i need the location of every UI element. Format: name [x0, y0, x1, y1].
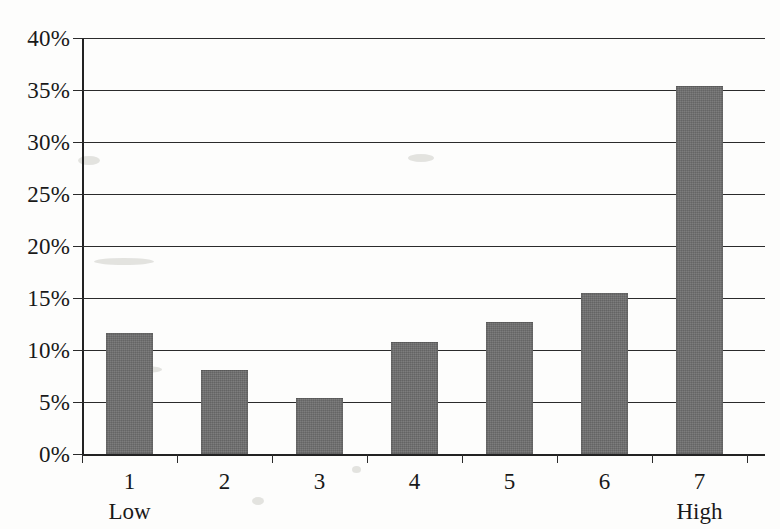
bar-2 [201, 370, 248, 454]
x-tick-mark [747, 454, 748, 463]
bar-1 [106, 333, 153, 454]
bar-4 [391, 342, 438, 454]
gridline-25 [82, 194, 765, 195]
bar-5 [486, 322, 533, 454]
gridline-15 [82, 298, 765, 299]
y-tick-mark [73, 246, 82, 247]
x-tick-mark [82, 454, 83, 463]
y-tick-mark [73, 90, 82, 91]
x-tick-label-3: 3 [272, 470, 367, 493]
y-tick-mark [73, 402, 82, 403]
x-tick-label-6: 6 [557, 470, 652, 493]
bar-3 [296, 398, 343, 454]
x-tick-mark [367, 454, 368, 463]
bar-chart: 40% 35% 30% 25% 20% 15% 10% 5% 0% [0, 0, 780, 529]
y-tick-label: 40% [0, 27, 70, 50]
y-tick-mark [73, 454, 82, 455]
x-tick-label-2: 2 [177, 470, 272, 493]
x-tick-label-7: 7 [652, 470, 747, 493]
y-tick-mark [73, 38, 82, 39]
x-tick-mark [272, 454, 273, 463]
x-axis-endpoint-label-high: High [652, 500, 747, 523]
x-tick-mark [462, 454, 463, 463]
y-tick-label: 35% [0, 79, 70, 102]
y-tick-mark [73, 298, 82, 299]
paper-speck [252, 497, 264, 505]
x-tick-mark [652, 454, 653, 463]
x-tick-label-4: 4 [367, 470, 462, 493]
y-tick-label: 10% [0, 339, 70, 362]
x-axis-endpoint-label-low: Low [82, 500, 177, 523]
y-tick-label: 25% [0, 183, 70, 206]
x-tick-mark [557, 454, 558, 463]
y-tick-label: 30% [0, 131, 70, 154]
gridline-0-baseline [82, 454, 765, 456]
y-tick-label: 5% [0, 391, 70, 414]
bar-6 [581, 293, 628, 454]
gridline-20 [82, 246, 765, 247]
y-tick-mark [73, 350, 82, 351]
y-tick-label: 15% [0, 287, 70, 310]
y-tick-label: 20% [0, 235, 70, 258]
y-tick-mark [73, 194, 82, 195]
y-tick-label: 0% [0, 443, 70, 466]
y-tick-mark [73, 142, 82, 143]
x-tick-label-5: 5 [462, 470, 557, 493]
gridline-35 [82, 90, 765, 91]
x-tick-mark [177, 454, 178, 463]
x-tick-label-1: 1 [82, 470, 177, 493]
gridline-40 [82, 38, 765, 39]
gridline-30 [82, 142, 765, 143]
plot-area [82, 38, 765, 454]
bar-7 [676, 86, 723, 454]
